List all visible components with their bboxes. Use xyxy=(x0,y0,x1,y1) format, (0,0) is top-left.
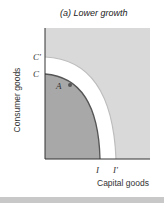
c-prime-label: C' xyxy=(33,52,41,62)
i-prime-label: I' xyxy=(113,165,118,175)
point-a-label: A xyxy=(56,81,62,91)
point-a-marker xyxy=(68,83,72,87)
i-label: I xyxy=(96,165,99,175)
c-label: C xyxy=(33,69,39,79)
y-axis-label: Consumer goods xyxy=(12,65,22,135)
ppf-diagram xyxy=(0,0,164,203)
bottom-divider xyxy=(0,197,164,203)
x-axis-label: Capital goods xyxy=(97,178,149,188)
